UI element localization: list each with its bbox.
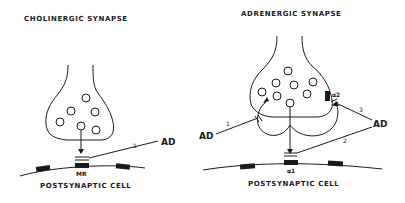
mr-receptor xyxy=(75,163,89,168)
alpha1-label: α1 xyxy=(287,167,295,174)
adrenergic-cell-label: POSTSYNAPTIC CELL xyxy=(248,180,339,188)
feedback-loop-left xyxy=(257,102,290,135)
cholinergic-panel: CHOLINERGIC SYNAPSE 1 AD MR POSTSYNAPTIC… xyxy=(20,15,175,190)
adrenergic-path-1 xyxy=(216,118,258,134)
alpha1-receptor xyxy=(284,160,298,165)
adrenergic-agonist-left-label: AD xyxy=(199,131,213,141)
mr-label: MR xyxy=(76,170,87,177)
cholinergic-cell-label: POSTSYNAPTIC CELL xyxy=(40,182,131,190)
receptor-block xyxy=(36,165,51,172)
alpha2-receptor xyxy=(325,91,330,101)
path-number: 1 xyxy=(133,142,137,149)
receptor-block xyxy=(116,163,130,169)
feedback-loop-right xyxy=(290,104,338,136)
blocker-bar xyxy=(258,115,262,121)
adrenergic-path-2 xyxy=(297,127,372,153)
path-number: 3 xyxy=(359,106,363,113)
adrenergic-agonist-right-label: AD xyxy=(373,119,387,129)
adrenergic-path-3 xyxy=(336,103,372,120)
receptor-block xyxy=(328,161,343,167)
alpha2-label: α2 xyxy=(332,91,340,98)
adrenergic-panel: ADRENERGIC SYNAPSE α2 xyxy=(199,10,387,188)
adrenergic-title: ADRENERGIC SYNAPSE xyxy=(241,10,342,18)
path-number: 2 xyxy=(343,137,347,144)
arrowhead-icon xyxy=(78,149,84,154)
receptor-block xyxy=(240,163,255,169)
cholinergic-vesicles xyxy=(56,94,100,134)
cholinergic-presynaptic-terminal xyxy=(46,65,114,140)
cholinergic-agonist-label: AD xyxy=(161,137,175,147)
cholinergic-path-1 xyxy=(89,141,158,158)
cholinergic-title: CHOLINERGIC SYNAPSE xyxy=(24,15,128,23)
synapse-diagram: CHOLINERGIC SYNAPSE 1 AD MR POSTSYNAPTIC… xyxy=(0,0,405,203)
path-number: 1 xyxy=(226,120,230,127)
